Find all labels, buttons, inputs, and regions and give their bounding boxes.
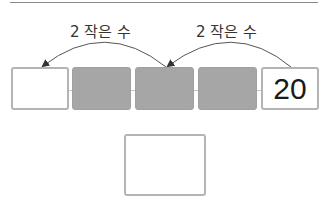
arrow-label-left: 2 작은 수: [70, 20, 131, 41]
sequence-box-5-given: 20: [261, 67, 319, 110]
arrow-right-to-middle: [168, 42, 291, 67]
sequence-box-1-input[interactable]: [11, 67, 69, 110]
arrow-label-right: 2 작은 수: [196, 20, 257, 41]
arrow-middle-to-left: [43, 42, 166, 67]
sequence-box-3-hidden: [135, 67, 194, 110]
sequence-box-4-hidden: [198, 67, 257, 110]
sequence-box-2-hidden: [72, 67, 131, 110]
answer-box[interactable]: [124, 134, 206, 196]
